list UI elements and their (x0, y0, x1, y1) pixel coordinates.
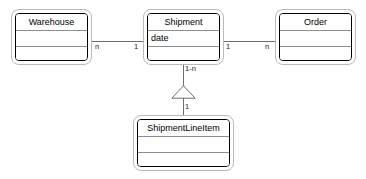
multiplicity-warehouse-side: n (95, 43, 99, 51)
class-order-attributes-compartment (280, 30, 351, 46)
class-shipment-name: Shipment (164, 18, 202, 27)
class-shipment-attributes: date (148, 34, 169, 43)
class-box-order-inner: Order (279, 13, 352, 61)
class-box-shipment[interactable]: Shipment date (143, 9, 224, 65)
class-box-shipment-inner: Shipment date (147, 13, 220, 61)
class-warehouse-name: Warehouse (29, 18, 75, 27)
class-shipment-line-item-operations-compartment (138, 152, 229, 166)
multiplicity-shipment-right-side: 1 (226, 43, 230, 51)
class-order-operations-compartment (280, 46, 351, 60)
class-shipment-line-item-attributes-compartment (138, 136, 229, 152)
generalization-line-lower (183, 98, 184, 115)
class-box-shipment-line-item[interactable]: ShipmentLineItem (133, 115, 234, 171)
class-order-name: Order (304, 18, 327, 27)
generalization-line-upper (183, 64, 184, 86)
multiplicity-shipment-left-side: 1 (134, 43, 138, 51)
multiplicity-order-side: n (265, 43, 269, 51)
class-warehouse-title-compartment: Warehouse (16, 14, 87, 30)
class-order-title-compartment: Order (280, 14, 351, 30)
class-warehouse-attributes-compartment (16, 30, 87, 46)
class-shipment-title-compartment: Shipment (148, 14, 219, 30)
class-shipment-operations-compartment (148, 46, 219, 60)
class-shipment-attributes-compartment: date (148, 30, 219, 46)
multiplicity-generalization-top: 1-n (185, 65, 196, 73)
multiplicity-generalization-bottom: 1 (185, 103, 189, 111)
class-shipment-line-item-name: ShipmentLineItem (147, 124, 220, 133)
class-box-warehouse[interactable]: Warehouse (11, 9, 92, 65)
class-warehouse-operations-compartment (16, 46, 87, 60)
class-box-shipment-line-item-inner: ShipmentLineItem (137, 119, 230, 167)
class-box-order[interactable]: Order (275, 9, 356, 65)
class-shipment-line-item-title-compartment: ShipmentLineItem (138, 120, 229, 136)
diagram-canvas: n 1 1 n 1-n 1 Warehouse Shipment (0, 0, 366, 179)
class-box-warehouse-inner: Warehouse (15, 13, 88, 61)
